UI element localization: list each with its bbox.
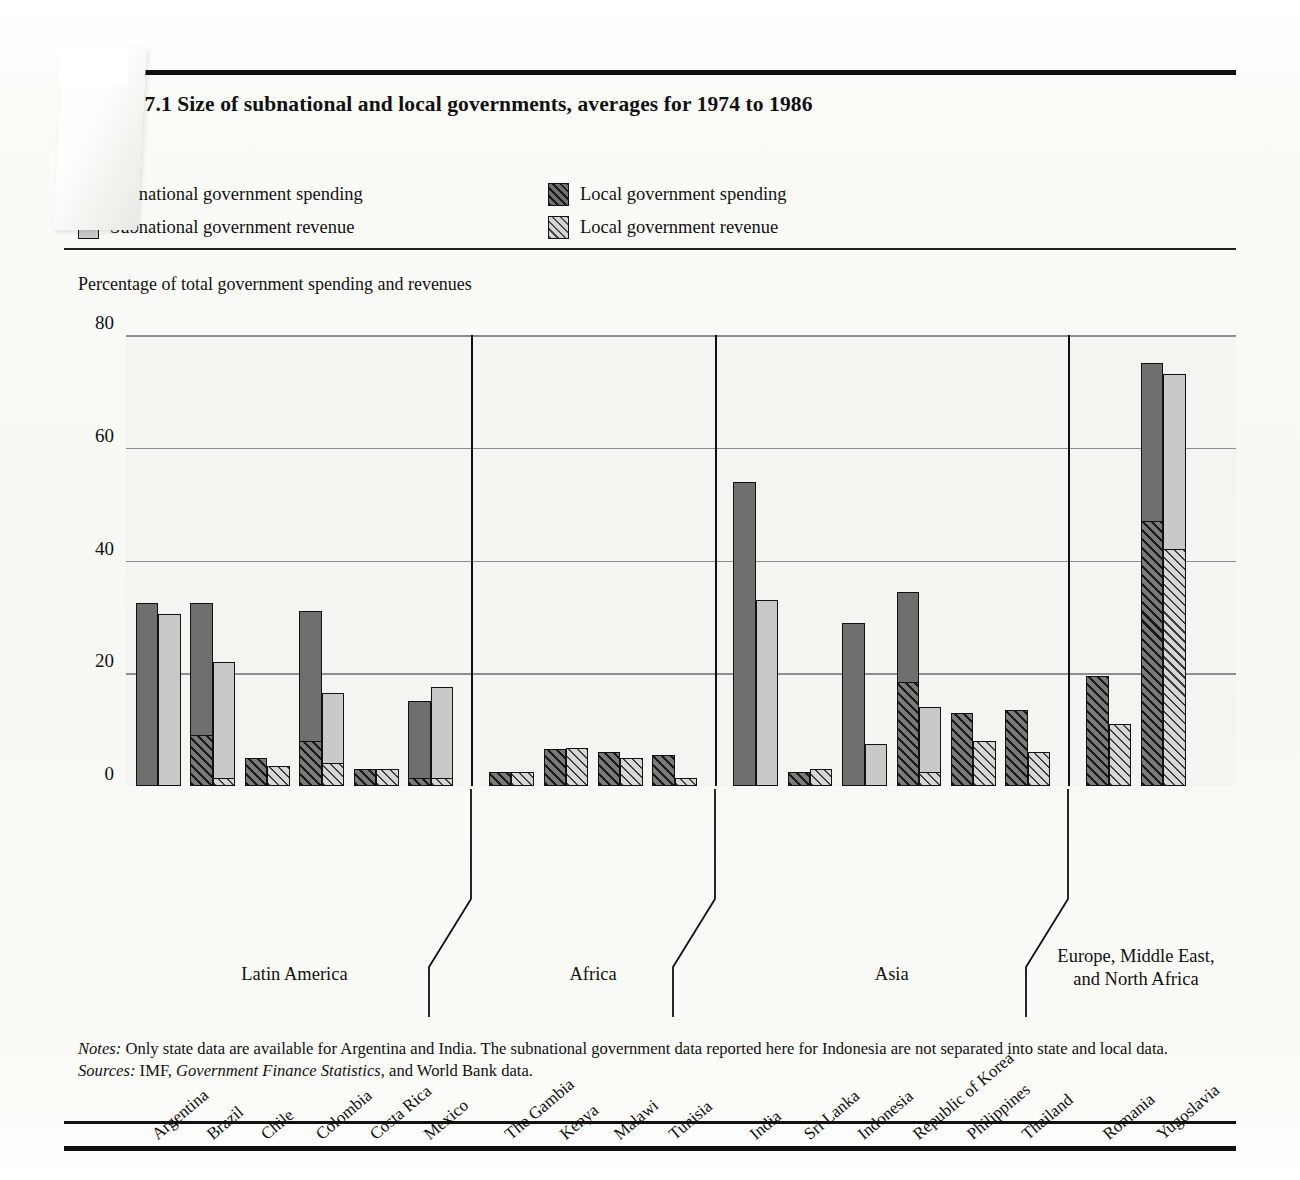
bar-local-spending-costa-rica	[354, 769, 376, 786]
bar-revenue-india	[756, 600, 778, 786]
bar-local-spending-mexico	[408, 778, 430, 786]
legend-label: Local government spending	[580, 184, 787, 205]
light-solid-swatch-icon	[78, 216, 99, 239]
notes-text: Only state data are available for Argent…	[121, 1039, 1168, 1058]
sources-text-b: , and World Bank data.	[381, 1061, 533, 1080]
legend-row: Subnational government revenue Local gov…	[78, 211, 1208, 244]
legend-label: Subnational government revenue	[110, 217, 355, 238]
bar-local-spending-thailand	[1005, 710, 1027, 786]
bar-spending-mexico	[408, 701, 430, 786]
sources-line: Sources: IMF, Government Finance Statist…	[78, 1060, 1224, 1082]
bar-local-revenue-brazil	[213, 778, 235, 786]
dark-hatched-swatch-icon	[548, 183, 569, 206]
bar-local-spending-yugoslavia	[1141, 521, 1163, 786]
bar-local-revenue-philippines	[973, 741, 995, 786]
bar-local-spending-colombia	[299, 741, 321, 786]
bar-revenue-mexico	[431, 687, 453, 786]
bar-local-revenue-the-gambia	[511, 772, 533, 786]
bottom-rule	[64, 1146, 1236, 1151]
chart-plot-area: 020406080 ArgentinaBrazilChileColombiaCo…	[126, 335, 1236, 786]
legend-rule	[64, 248, 1236, 250]
legend-item-subnational-revenue: Subnational government revenue	[78, 216, 548, 239]
bar-local-revenue-colombia	[322, 763, 344, 786]
sources-italic-title: Government Finance Statistics	[176, 1061, 381, 1080]
legend-item-local-revenue: Local government revenue	[548, 216, 1018, 239]
bar-local-revenue-tunisia	[675, 778, 697, 786]
notes-label: Notes:	[78, 1039, 121, 1058]
bar-local-revenue-thailand	[1028, 752, 1050, 786]
bar-local-spending-brazil	[190, 735, 212, 786]
bar-local-spending-the-gambia	[489, 772, 511, 786]
bar-local-revenue-malawi	[620, 758, 642, 786]
figure-title: Figure 7.1 Size of subnational and local…	[78, 92, 1218, 117]
group-label-africa: Africa	[443, 963, 743, 986]
y-tick-label: 60	[54, 425, 114, 447]
group-separator	[1068, 335, 1070, 786]
group-separator	[715, 335, 717, 786]
dark-solid-swatch-icon	[78, 183, 99, 206]
bar-local-spending-romania	[1086, 676, 1108, 786]
group-label-europe: Europe, Middle East, and North Africa	[986, 945, 1286, 991]
bar-local-spending-republic-of-korea	[897, 682, 919, 786]
bar-local-revenue-chile	[267, 766, 289, 786]
legend-label: Local government revenue	[580, 217, 778, 238]
bar-local-spending-kenya	[544, 749, 566, 786]
light-hatched-swatch-icon	[548, 216, 569, 239]
bar-revenue-argentina	[158, 614, 180, 786]
bar-local-revenue-costa-rica	[376, 769, 398, 786]
notes-block: Notes: Only state data are available for…	[78, 1038, 1224, 1082]
bar-local-spending-sri-lanka	[788, 772, 810, 786]
sources-label: Sources:	[78, 1061, 135, 1080]
bar-revenue-indonesia	[865, 744, 887, 786]
bar-local-revenue-mexico	[431, 778, 453, 786]
group-separator	[471, 335, 473, 786]
bar-local-revenue-republic-of-korea	[919, 772, 941, 786]
bar-spending-india	[733, 482, 755, 786]
bar-spending-indonesia	[842, 623, 864, 786]
bar-local-spending-chile	[245, 758, 267, 786]
sources-text-a: IMF,	[135, 1061, 176, 1080]
legend: Subnational government spending Local go…	[78, 178, 1208, 244]
bar-local-spending-tunisia	[652, 755, 674, 786]
bar-local-spending-malawi	[598, 752, 620, 786]
legend-item-local-spending: Local government spending	[548, 183, 1018, 206]
legend-row: Subnational government spending Local go…	[78, 178, 1208, 211]
bar-local-spending-philippines	[951, 713, 973, 786]
legend-label: Subnational government spending	[110, 184, 363, 205]
bar-local-revenue-romania	[1109, 724, 1131, 786]
bar-local-revenue-sri-lanka	[810, 769, 832, 786]
top-rule	[64, 70, 1236, 75]
group-label-latin-america: Latin America	[144, 963, 444, 986]
legend-item-subnational-spending: Subnational government spending	[78, 183, 548, 206]
y-tick-label: 80	[54, 312, 114, 334]
bar-revenue-brazil	[213, 662, 235, 786]
bar-local-revenue-yugoslavia	[1163, 549, 1185, 786]
y-tick-label: 0	[54, 763, 114, 785]
notes-line: Notes: Only state data are available for…	[78, 1038, 1224, 1060]
bar-spending-argentina	[136, 603, 158, 786]
y-tick-label: 40	[54, 538, 114, 560]
y-axis-caption: Percentage of total government spending …	[78, 274, 472, 295]
bar-local-revenue-kenya	[566, 748, 588, 786]
y-tick-label: 20	[54, 650, 114, 672]
figure-page: Figure 7.1 Size of subnational and local…	[0, 0, 1300, 1180]
